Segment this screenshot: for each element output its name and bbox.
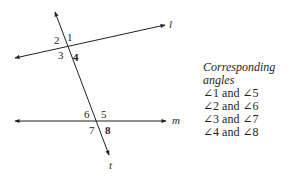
label-line-m: m	[172, 114, 180, 126]
angle-label-2: 2	[54, 34, 60, 46]
angle-label-3: 3	[58, 49, 64, 61]
angle-label-5: 5	[101, 108, 107, 120]
label-line-t: t	[109, 159, 113, 171]
angle-label-1: 1	[67, 31, 73, 43]
angle-label-4: 4	[73, 51, 79, 63]
label-line-l: l	[169, 18, 172, 30]
legend-pair: ∠4 and ∠8	[203, 126, 303, 139]
line-l	[15, 25, 165, 58]
angle-label-8: 8	[105, 124, 111, 136]
transversal-t	[55, 12, 109, 155]
corresponding-angles-legend: Corresponding angles ∠1 and ∠5 ∠2 and ∠6…	[203, 61, 303, 139]
angle-label-6: 6	[84, 108, 90, 120]
angle-label-7: 7	[89, 124, 95, 136]
legend-title: Corresponding angles	[203, 61, 303, 87]
